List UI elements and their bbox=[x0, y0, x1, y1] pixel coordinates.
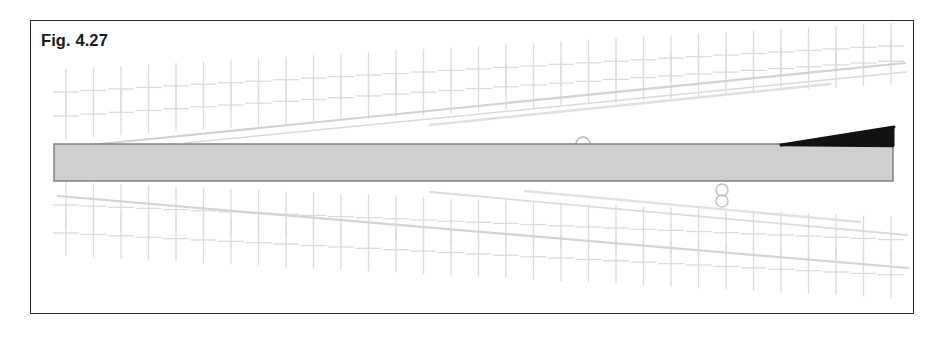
figure-border-frame bbox=[30, 20, 914, 314]
figure-container: Fig. 4.27 bbox=[0, 0, 944, 339]
figure-caption-label: Fig. 4.27 bbox=[41, 31, 108, 50]
